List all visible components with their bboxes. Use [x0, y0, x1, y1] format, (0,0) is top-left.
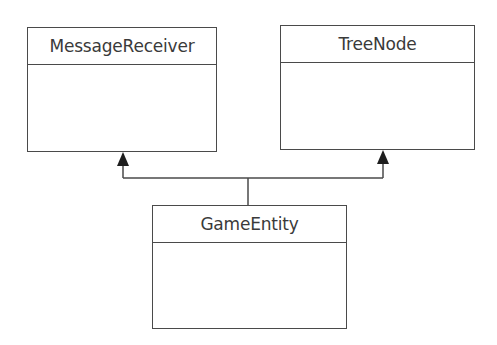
class-name: GameEntity	[200, 214, 298, 234]
arrowhead-icon	[377, 150, 389, 164]
class-name-header: GameEntity	[153, 206, 346, 243]
class-box-game-entity[interactable]: GameEntity	[152, 205, 347, 329]
class-box-tree-node[interactable]: TreeNode	[280, 25, 475, 150]
arrowhead-icon	[117, 152, 129, 166]
class-name: MessageReceiver	[49, 36, 194, 56]
class-box-message-receiver[interactable]: MessageReceiver	[27, 27, 217, 152]
class-name: TreeNode	[338, 34, 416, 54]
class-name-header: MessageReceiver	[28, 28, 216, 65]
class-name-header: TreeNode	[281, 26, 474, 63]
